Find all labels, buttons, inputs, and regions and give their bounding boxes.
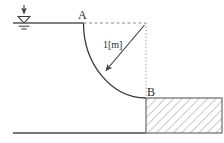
diagram-canvas (0, 0, 224, 143)
water-surface-level-icon (18, 5, 30, 29)
point-label-a: A (78, 9, 87, 21)
point-label-b: B (147, 86, 155, 98)
water-symbol-triangle (18, 17, 30, 24)
hatched-support-block (146, 98, 222, 133)
engineering-diagram: A B 1[m] (0, 0, 224, 143)
radius-dimension-label: 1[m] (103, 40, 122, 50)
